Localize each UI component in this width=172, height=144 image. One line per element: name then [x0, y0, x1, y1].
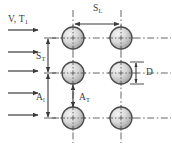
- label-al-sub: l: [43, 96, 45, 103]
- label-inlet-text: V, T: [8, 14, 25, 24]
- label-transverse-clearance: AT: [79, 93, 90, 103]
- label-sl-sub: L: [98, 7, 102, 14]
- label-longitudinal-clearance: Al: [36, 93, 45, 103]
- dimension-st: [44, 38, 56, 73]
- label-inlet-velocity-temperature: V, T1: [8, 15, 28, 25]
- label-at-sub: T: [86, 96, 90, 103]
- label-transverse-pitch: ST: [36, 52, 45, 62]
- inlet-flow-arrows: [8, 30, 38, 115]
- label-st-sub: T: [41, 55, 45, 62]
- label-longitudinal-pitch: SL: [93, 4, 102, 14]
- label-at-text: A: [79, 92, 86, 102]
- dimension-al: [44, 74, 56, 118]
- label-d-text: D: [146, 67, 153, 77]
- label-tube-diameter: D: [146, 68, 153, 78]
- tube-bank-diagram: V, T1 SL ST Al AT D: [0, 0, 172, 144]
- tube-array: [62, 27, 132, 129]
- label-al-text: A: [36, 92, 43, 102]
- label-inlet-sub: 1: [25, 18, 28, 25]
